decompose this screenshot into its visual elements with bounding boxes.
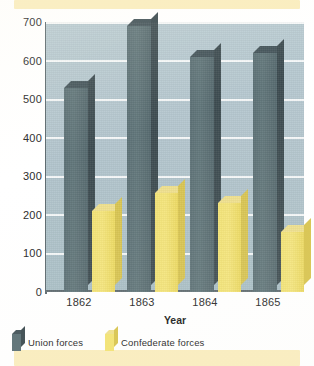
- bar-union-1863: [127, 26, 151, 292]
- gridline-700: [46, 22, 304, 24]
- bar-front-face: [281, 232, 304, 292]
- y-tick-400: 400: [2, 132, 42, 144]
- y-tick-600: 600: [2, 55, 42, 67]
- legend-swatch-confederate-icon: [105, 334, 114, 351]
- legend-item-union: Union forces: [12, 334, 83, 351]
- page-banner-top: [14, 0, 300, 9]
- legend-label-confederate: Confederate forces: [121, 337, 205, 348]
- x-tick-1864: 1864: [175, 296, 235, 308]
- bar-front-face: [127, 26, 151, 292]
- legend-item-confederate: Confederate forces: [105, 334, 205, 351]
- y-tick-500: 500: [2, 93, 42, 105]
- bar-front-face: [155, 193, 178, 292]
- legend-label-union: Union forces: [28, 337, 83, 348]
- y-tick-300: 300: [2, 170, 42, 182]
- bar-confederate-1865: [281, 232, 304, 292]
- x-tick-1862: 1862: [49, 296, 109, 308]
- bar-union-1864: [190, 57, 214, 292]
- y-tick-700: 700: [2, 16, 42, 28]
- bar-side-face: [304, 218, 311, 285]
- chart-legend: Union forces Confederate forces: [12, 334, 302, 356]
- bar-side-face: [178, 179, 185, 285]
- legend-swatch-union-icon: [12, 334, 21, 351]
- bar-confederate-1864: [218, 203, 241, 292]
- x-tick-1863: 1863: [112, 296, 172, 308]
- x-axis-title: Year: [46, 314, 304, 326]
- bar-front-face: [253, 53, 277, 292]
- bar-confederate-1862: [92, 211, 115, 292]
- bar-confederate-1863: [155, 193, 178, 292]
- x-tick-1865: 1865: [238, 296, 298, 308]
- y-tick-200: 200: [2, 209, 42, 221]
- y-tick-100: 100: [2, 247, 42, 259]
- bar-chart-figure: 700 600 500 400 300 200 100 0 Men (in th…: [0, 10, 314, 348]
- plot-area: [46, 22, 304, 292]
- bar-side-face: [241, 189, 248, 285]
- bar-union-1862: [64, 88, 88, 292]
- bar-front-face: [218, 203, 241, 292]
- bar-union-1865: [253, 53, 277, 292]
- bar-front-face: [190, 57, 214, 292]
- y-tick-0: 0: [2, 286, 42, 298]
- bar-side-face: [115, 197, 122, 285]
- bar-front-face: [64, 88, 88, 292]
- bar-front-face: [92, 211, 115, 292]
